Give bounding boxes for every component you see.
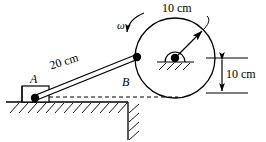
pin-joint-a	[31, 94, 39, 102]
ground-support	[6, 102, 139, 140]
mechanism-diagram: 10 cm 10 cm 20 cm A B ω	[0, 0, 266, 142]
angular-velocity-label: ω	[117, 20, 125, 31]
angular-velocity-arrow	[127, 13, 144, 32]
radius-leader-line	[203, 16, 209, 30]
disk-radius-label: 10 cm	[162, 2, 192, 14]
point-a-label: A	[30, 73, 37, 85]
bearing-hatching	[159, 63, 190, 70]
angular-velocity-indicator	[127, 13, 144, 32]
pin-joint-b	[133, 53, 141, 61]
center-height-label: 10 cm	[226, 68, 256, 80]
radius-dimension-arrow	[175, 31, 202, 58]
ground-hatching	[10, 103, 127, 113]
point-b-label: B	[122, 76, 129, 88]
center-bearing-support	[157, 52, 194, 70]
wall-hatching	[129, 104, 139, 140]
